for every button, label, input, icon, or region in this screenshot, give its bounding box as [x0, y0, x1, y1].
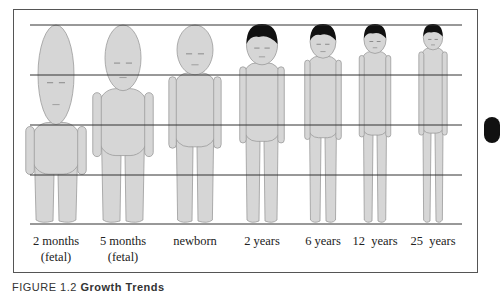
stage-label-line2: (fetal): [88, 249, 158, 265]
figure-0: [26, 25, 86, 222]
figure-6: [419, 24, 447, 222]
figure-caption: FIGURE 1.2 Growth Trends: [12, 281, 165, 293]
page-tab-marker: [484, 117, 500, 143]
stage-label: newborn: [160, 233, 230, 249]
stage-label: 5 months(fetal): [88, 233, 158, 265]
figure-1: [93, 25, 153, 222]
stage-label-line2: (fetal): [21, 249, 91, 265]
stage-label-line1: 5 months: [88, 233, 158, 249]
stage-label-line1: 2 months: [21, 233, 91, 249]
figure-2: [169, 25, 221, 222]
stage-label: 2 months(fetal): [21, 233, 91, 265]
stage-label: 25 years: [398, 233, 468, 249]
figure-3: [240, 24, 285, 222]
stage-label-line1: 2 years: [227, 233, 297, 249]
figure-4: [305, 24, 342, 222]
caption-title: Growth Trends: [80, 281, 164, 293]
caption-prefix: FIGURE 1.2: [12, 281, 77, 293]
figure-5: [359, 24, 391, 222]
stage-label: 2 years: [227, 233, 297, 249]
stage-label-line1: newborn: [160, 233, 230, 249]
stage-label-line1: 25 years: [398, 233, 468, 249]
